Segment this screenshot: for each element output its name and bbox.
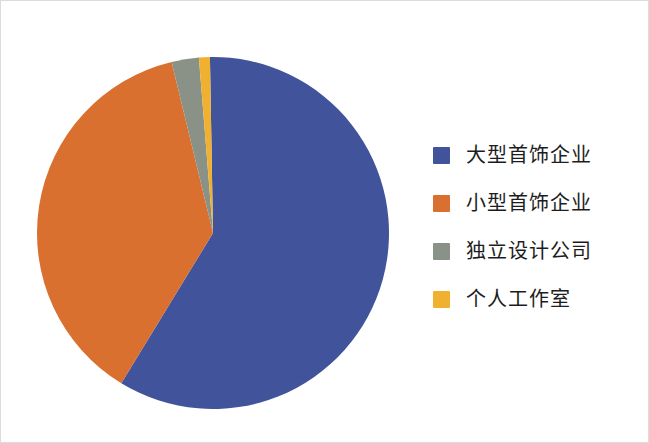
pie-slice-group — [37, 57, 389, 409]
legend-item-personal-studio[interactable]: 个人工作室 — [433, 275, 643, 323]
legend-label-1: 小型首饰企业 — [466, 193, 592, 213]
legend-item-independent-design-company[interactable]: 独立设计公司 — [433, 227, 643, 275]
pie-plot-area — [1, 1, 431, 443]
legend-swatch-icon-1 — [433, 195, 450, 212]
legend-swatch-icon-2 — [433, 243, 450, 260]
legend-label-2: 独立设计公司 — [466, 241, 592, 261]
legend-swatch-icon-0 — [433, 147, 450, 164]
legend-label-0: 大型首饰企业 — [466, 145, 592, 165]
legend-swatch-icon-3 — [433, 291, 450, 308]
legend-item-small-jewelry-enterprise[interactable]: 小型首饰企业 — [433, 179, 643, 227]
legend-item-large-jewelry-enterprise[interactable]: 大型首饰企业 — [433, 131, 643, 179]
pie-chart-svg — [1, 1, 431, 443]
legend-label-3: 个人工作室 — [466, 289, 571, 309]
chart-legend: 大型首饰企业 小型首饰企业 独立设计公司 个人工作室 — [433, 131, 643, 323]
pie-chart-figure: 大型首饰企业 小型首饰企业 独立设计公司 个人工作室 — [0, 0, 649, 443]
